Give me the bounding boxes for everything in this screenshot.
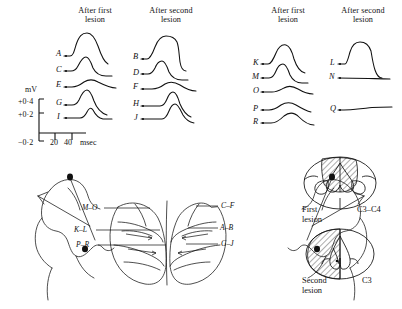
trace-group-column-1: [64, 33, 116, 119]
arrow-left-low: [128, 249, 156, 255]
figure-root: After first lesion After second lesion A…: [0, 0, 402, 309]
calibration-axes: [39, 99, 86, 141]
trace-group-column-3: [261, 45, 314, 125]
electrode-head-left-1: [67, 174, 73, 181]
arrow-right-mid: [182, 234, 208, 240]
electrode-head-left-2: [82, 246, 88, 252]
trace-group-column-4: [338, 42, 392, 111]
figure-vector-layer: [0, 0, 402, 309]
arrow-right-low: [178, 249, 206, 255]
cord-section-first-lesion: [304, 157, 376, 209]
trace-group-column-2: [141, 36, 196, 123]
arrow-left-mid: [126, 234, 152, 240]
cord-section-second-lesion: [306, 229, 374, 279]
